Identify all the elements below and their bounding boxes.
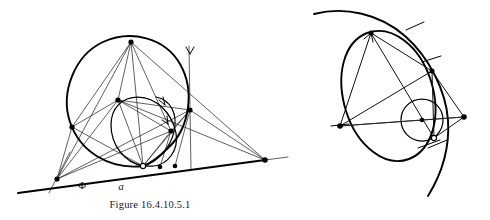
point-left-vertex-right — [337, 123, 343, 129]
point-left — [69, 124, 74, 129]
point-center — [115, 97, 120, 102]
baseline-extension — [265, 157, 288, 160]
point-top — [128, 39, 133, 44]
point-right-lower — [168, 128, 173, 133]
figure-left-panel: Φ a Figure 16.4.10.5.1 — [0, 0, 300, 220]
point-circle-center — [420, 118, 425, 123]
figure-right-panel: Figure 16.4.10.5.2 — [300, 0, 490, 220]
figure-left-drawing: Φ a — [0, 0, 300, 220]
chord-web — [72, 42, 190, 167]
figure-right-drawing — [300, 0, 490, 220]
point-tangency — [431, 135, 436, 140]
point-right-vertex-right — [461, 114, 467, 120]
pencil-from-left-vertex — [49, 42, 190, 193]
point-phi-vertex — [54, 176, 59, 181]
point-base-inner — [158, 165, 163, 170]
phi-label: Φ — [78, 179, 86, 191]
figure-left-caption: Figure 16.4.10.5.1 — [0, 199, 300, 210]
point-ellipse-right — [430, 69, 435, 74]
point-ellipse-top — [369, 31, 374, 36]
point-right-vertex — [262, 157, 268, 163]
point-right-upper — [187, 107, 192, 112]
a-label: a — [118, 180, 124, 192]
figure-plate: Φ a Figure 16.4.10.5.1 — [0, 0, 490, 220]
marked-points — [54, 39, 267, 181]
pencil-from-right-vertex — [118, 42, 265, 160]
outer-arc-curve — [314, 11, 448, 196]
point-base-outer — [173, 164, 178, 169]
chord-web-right — [340, 33, 464, 138]
tangent-ticks — [331, 22, 447, 148]
point-a — [140, 163, 145, 168]
